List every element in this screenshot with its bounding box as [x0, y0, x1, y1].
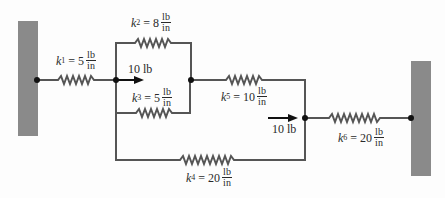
- eq: =: [347, 132, 360, 144]
- unit-den: in: [161, 23, 171, 33]
- unit-den: in: [257, 97, 267, 107]
- eq: =: [230, 91, 243, 103]
- spring-network-diagram: k1 = 5 lbin k2 = 8 lbin k3 = 5 lbin k4 =…: [0, 0, 445, 198]
- spring-k6: [305, 114, 411, 122]
- unit-fraction: lbin: [86, 50, 96, 71]
- unit-den: in: [222, 178, 232, 188]
- eq: =: [195, 172, 208, 184]
- node-left-wall: [34, 77, 40, 83]
- force-label-2: 10 lb: [272, 122, 296, 137]
- k-value: 20: [208, 172, 220, 184]
- node-a: [113, 77, 119, 83]
- label-k2: k2 = 8 lbin: [131, 12, 171, 33]
- unit-fraction: lbin: [257, 86, 267, 107]
- node-right-wall: [408, 115, 414, 121]
- node-b: [188, 77, 194, 83]
- k-value: 8: [153, 17, 159, 29]
- k-value: 5: [154, 92, 160, 104]
- label-k6: k6 = 20 lbin: [338, 127, 384, 148]
- force-label-1: 10 lb: [128, 62, 152, 77]
- unit-fraction: lbin: [161, 12, 171, 33]
- unit-fraction: lbin: [374, 127, 384, 148]
- eq: =: [140, 17, 153, 29]
- k-value: 5: [78, 55, 84, 67]
- k-value: 20: [360, 132, 372, 144]
- right-wall: [411, 61, 431, 176]
- label-k4: k4 = 20 lbin: [186, 167, 232, 188]
- eq: =: [141, 92, 154, 104]
- label-k3: k3 = 5 lbin: [132, 87, 172, 108]
- force-arrow-1: [116, 76, 144, 84]
- unit-den: in: [86, 61, 96, 71]
- eq: =: [65, 55, 78, 67]
- spring-k1: [37, 76, 116, 84]
- force-arrow-2: [268, 114, 298, 122]
- spring-k4: [116, 113, 305, 164]
- node-c: [302, 115, 308, 121]
- k-value: 10: [243, 91, 255, 103]
- unit-fraction: lbin: [222, 167, 232, 188]
- label-k1: k1 = 5 lbin: [56, 50, 96, 71]
- unit-den: in: [374, 138, 384, 148]
- unit-den: in: [162, 98, 172, 108]
- label-k5: k5 = 10 lbin: [221, 86, 267, 107]
- unit-fraction: lbin: [162, 87, 172, 108]
